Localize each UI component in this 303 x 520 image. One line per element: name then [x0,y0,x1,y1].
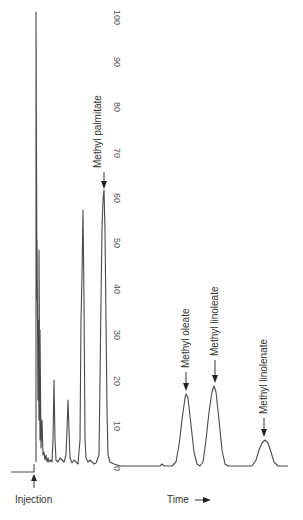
linolenate-arrow-head [261,429,267,437]
tick-60: 60 [112,193,122,203]
tick-10: 10 [112,421,122,431]
tick-20: 20 [112,376,122,386]
oleate-label: Methyl oleate [180,308,191,368]
linoleate-label: Methyl linoleate [209,286,220,356]
annotation-oleate: Methyl oleate [180,308,191,391]
tick-90: 90 [112,57,122,67]
chromatogram-trace [36,12,288,466]
tick-30: 30 [112,330,122,340]
annotation-linolenate: Methyl linolenate [258,339,269,437]
injection-arrow-head [31,474,37,481]
tick-100: 100 [112,10,122,25]
pre-injection-baseline [11,464,34,472]
chromatogram: 0 10 20 30 40 50 60 70 80 90 100 Injecti… [0,0,303,520]
injection-label: Injection [15,494,52,505]
linolenate-label: Methyl linolenate [258,339,269,414]
linoleate-arrow-head [212,375,218,383]
time-arrow-head [203,497,211,503]
tick-40: 40 [112,284,122,294]
annotation-palmitate: Methyl palmitate [92,95,107,189]
annotation-linoleate: Methyl linoleate [209,286,220,383]
injection-marker: Injection [15,474,52,505]
oleate-arrow-head [183,383,189,391]
y-axis-tick-labels: 0 10 20 30 40 50 60 70 80 90 100 [112,10,122,471]
tick-80: 80 [112,102,122,112]
tick-0: 0 [112,466,122,471]
tick-50: 50 [112,238,122,248]
tick-70: 70 [112,148,122,158]
time-axis-label: Time [167,494,211,505]
palmitate-arrow-head [101,181,107,189]
palmitate-label: Methyl palmitate [92,95,103,168]
time-label: Time [167,494,189,505]
